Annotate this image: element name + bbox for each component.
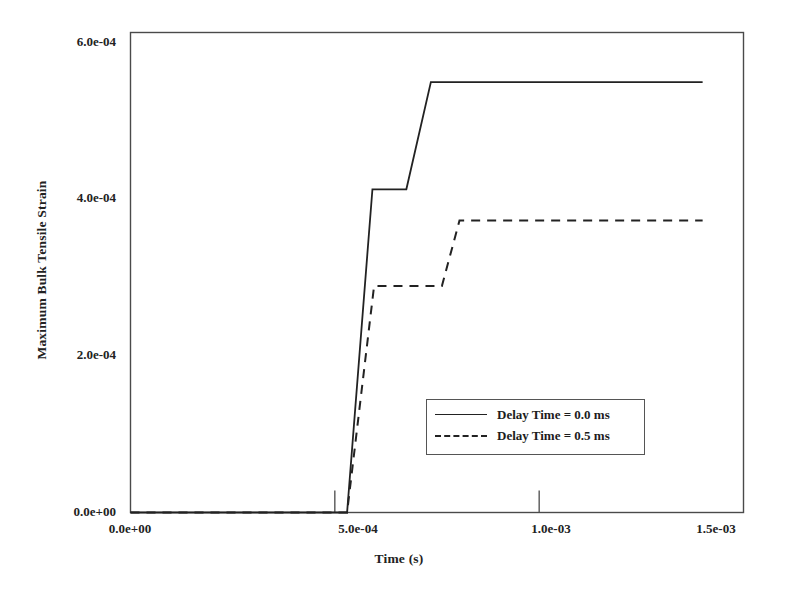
- axis-tick-marks: [131, 193, 540, 513]
- chart-figure: Maximum Bulk Tensile Strain Time (s) 6.0…: [0, 0, 798, 591]
- legend-item-0: Delay Time = 0.0 ms: [435, 404, 634, 425]
- series-line-1: [131, 221, 703, 513]
- legend-item-1: Delay Time = 0.5 ms: [435, 425, 634, 446]
- legend-label-0: Delay Time = 0.0 ms: [497, 407, 610, 423]
- chart-legend: Delay Time = 0.0 ms Delay Time = 0.5 ms: [426, 399, 645, 455]
- plot-canvas: [0, 0, 798, 591]
- legend-label-1: Delay Time = 0.5 ms: [497, 428, 610, 444]
